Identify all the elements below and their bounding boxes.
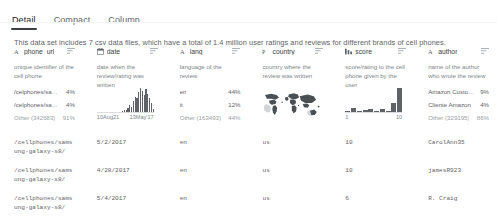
value-label: Other (342683)	[14, 114, 55, 121]
date-type-icon	[97, 48, 104, 55]
histogram-axis	[345, 112, 402, 113]
text-type-icon: A	[428, 48, 435, 55]
column-name-date: date	[107, 48, 120, 55]
column-country: P country country where the review was w…	[248, 44, 331, 127]
svg-text:A: A	[428, 48, 433, 55]
value-percent: 44%	[228, 88, 240, 95]
number-type-icon	[345, 48, 352, 55]
world-map-svg	[262, 87, 323, 120]
value-label: Amazon Customer	[428, 88, 476, 95]
value-row[interactable]: en 44%	[180, 88, 241, 101]
cell-lang: en	[166, 133, 249, 161]
cell-country: us	[248, 133, 331, 161]
column-description-country: country where the review was written	[262, 63, 323, 81]
tab-column-label: Column	[108, 15, 140, 25]
column-name-author: author	[438, 48, 457, 55]
column-menu-icon[interactable]	[481, 48, 489, 55]
value-row-other[interactable]: Other (342683) 91%	[14, 114, 75, 127]
column-menu-icon[interactable]	[150, 48, 158, 55]
histogram-bars	[345, 88, 402, 112]
histogram-axis-labels: 10Aug21 13May'17	[97, 114, 154, 120]
cell-phone_url: /cellphones/samsung-galaxy-s8/	[0, 189, 83, 217]
cell-date: 4/28/2017	[83, 161, 166, 189]
value-label: /celphones/samsun...	[14, 101, 62, 108]
svg-text:P: P	[262, 48, 266, 54]
cell-phone_url: /cellphones/samsung-galaxy-s8/	[0, 133, 83, 161]
cell-score: 6	[331, 189, 414, 217]
histogram-date: 10Aug21 13May'17	[97, 88, 158, 120]
column-menu-icon[interactable]	[232, 48, 240, 55]
tabs-divider	[0, 22, 497, 23]
column-menu-icon[interactable]	[315, 48, 323, 55]
column-date: date date when the review/rating was wri…	[83, 44, 166, 127]
histogram-score: 1 10	[345, 88, 406, 120]
cell-date: 5/4/2017	[83, 189, 166, 217]
cell-phone_url: /cellphones/samsung-galaxy-s8/	[0, 161, 83, 189]
value-label: it	[180, 101, 183, 108]
value-percent: 4%	[66, 88, 75, 95]
column-summary-grid: A phone_url unique identifier of the cel…	[0, 44, 497, 127]
value-row-other[interactable]: Other (163493) 44%	[180, 114, 241, 127]
column-header-country: P country	[262, 44, 323, 58]
world-map-chart	[262, 87, 323, 120]
geo-type-icon: P	[262, 48, 269, 55]
value-row[interactable]: /celphones/samsun... 4%	[14, 88, 75, 101]
data-rows: /cellphones/samsung-galaxy-s8/ 5/2/2017 …	[0, 133, 497, 217]
column-header-phone_url: A phone_url	[14, 44, 75, 58]
column-description-lang: language of the review	[180, 63, 241, 81]
column-header-date: date	[97, 44, 158, 58]
value-percent: 4%	[480, 101, 489, 108]
cell-author: jamesR923	[414, 161, 497, 189]
value-percent: 12%	[228, 101, 240, 108]
value-percent: 91%	[63, 114, 75, 121]
column-description-date: date when the review/rating was written	[97, 63, 158, 81]
value-label: /celphones/samsun...	[14, 88, 62, 95]
cell-lang: en	[166, 189, 249, 217]
value-label: en	[180, 88, 187, 95]
column-name-country: country	[272, 48, 294, 55]
axis-max-label: 13May'17	[130, 114, 154, 120]
value-row[interactable]: /celphones/samsun... 4%	[14, 101, 75, 114]
histogram-bar	[391, 103, 396, 112]
column-lang: A lang language of the review en 44% it …	[166, 44, 249, 127]
histogram-bars	[97, 88, 154, 112]
table-row[interactable]: /cellphones/samsung-galaxy-s8/ 5/4/2017 …	[0, 189, 497, 217]
axis-max-label: 10	[396, 114, 402, 120]
column-description-score: score/rating to the cell phone given by …	[345, 63, 406, 81]
table-row[interactable]: /cellphones/samsung-galaxy-s8/ 4/28/2017…	[0, 161, 497, 189]
value-row[interactable]: Cliente Amazon 4%	[428, 101, 489, 114]
data-set-preview-panel: Detail Compact Column This data set incl…	[0, 0, 497, 217]
value-label: Cliente Amazon	[428, 101, 471, 108]
column-description-author: name of the author who wrote the review	[428, 63, 489, 81]
cell-score: 10	[331, 161, 414, 189]
column-menu-icon[interactable]	[398, 48, 406, 55]
text-type-icon: A	[180, 48, 187, 55]
value-distribution-lang: en 44% it 12% Other (163493) 44%	[180, 88, 241, 127]
column-header-score: score	[345, 44, 406, 58]
svg-text:A: A	[180, 48, 185, 55]
value-row-other[interactable]: Other (329195) 86%	[428, 114, 489, 127]
column-menu-icon[interactable]	[67, 48, 75, 55]
table-row[interactable]: /cellphones/samsung-galaxy-s8/ 5/2/2017 …	[0, 133, 497, 161]
column-author: A author name of the author who wrote th…	[414, 44, 497, 127]
cell-date: 5/2/2017	[83, 133, 166, 161]
cell-author: CarolAnn35	[414, 133, 497, 161]
column-name-score: score	[355, 48, 372, 55]
cell-country: us	[248, 189, 331, 217]
tab-detail-label: Detail	[12, 15, 36, 25]
value-percent: 44%	[228, 114, 240, 121]
value-percent: 9%	[480, 88, 489, 95]
value-distribution-phone_url: /celphones/samsun... 4% /celphones/samsu…	[14, 88, 75, 127]
column-name-phone_url: phone_url	[24, 48, 54, 55]
column-name-lang: lang	[190, 48, 203, 55]
cell-country: us	[248, 161, 331, 189]
value-percent: 86%	[477, 114, 489, 121]
histogram-axis-labels: 1 10	[345, 114, 402, 120]
value-row[interactable]: Amazon Customer 9%	[428, 88, 489, 101]
column-description-phone_url: unique identifier of the cell phone	[14, 63, 75, 81]
value-row[interactable]: it 12%	[180, 101, 241, 114]
svg-text:A: A	[14, 48, 19, 55]
cell-lang: en	[166, 161, 249, 189]
column-header-author: A author	[428, 44, 489, 58]
text-type-icon: A	[14, 48, 21, 55]
